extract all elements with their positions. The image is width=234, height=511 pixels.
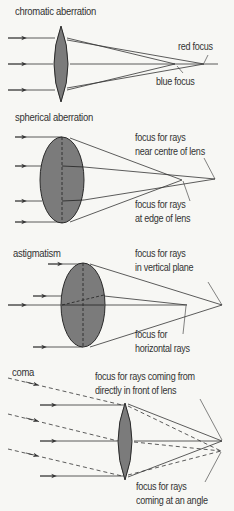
coma-title: coma <box>12 366 34 379</box>
vertical-focus-label-line2: in vertical plane <box>135 261 193 274</box>
red-focus-label: red focus <box>178 40 213 53</box>
centre-focus-label-line1: focus for rays <box>135 131 186 144</box>
blue-focus-label: blue focus <box>156 75 195 88</box>
astigmatic-lens <box>61 263 105 347</box>
centre-focus-label-line2: near centre of lens <box>135 145 205 158</box>
astigmatism-panel <box>8 264 222 347</box>
direct-focus-label-line1: focus for rays coming from <box>95 370 195 383</box>
angle-focus-label-line2: coming at an angle <box>136 494 208 507</box>
angle-focus-label-line1: focus for rays <box>136 480 187 493</box>
edge-focus-label-line1: focus for rays <box>135 198 186 211</box>
chromatic-aberration-title: chromatic aberration <box>15 5 96 18</box>
vertical-focus-label-line1: focus for rays <box>135 247 186 260</box>
horizontal-focus-label-line2: horizontal rays <box>135 342 190 355</box>
spherical-lens <box>40 137 84 223</box>
convex-lens <box>54 26 68 102</box>
coma-lens <box>118 403 132 480</box>
spherical-aberration-title: spherical aberration <box>15 111 93 124</box>
direct-focus-label-line2: directly in front of lens <box>95 384 176 397</box>
edge-focus-label-line2: at edge of lens <box>135 212 190 225</box>
optical-aberrations-diagram: chromatic aberration red focus blue focu… <box>0 0 234 511</box>
astigmatism-title: astigmatism <box>13 247 61 260</box>
horizontal-focus-label-line1: focus for <box>135 328 167 341</box>
